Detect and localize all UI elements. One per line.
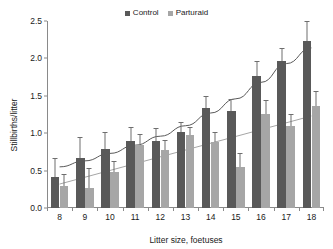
y-axis-tick-mark [44,95,47,96]
x-axis-tick-label: 11 [131,212,140,222]
bar-parturaid-10 [110,21,119,208]
error-bar [190,128,191,135]
bar-rect [261,114,270,208]
x-axis-tick-mark [299,208,300,211]
legend-label-control: Control [133,9,159,17]
bar-group [76,21,94,208]
bar-group [202,21,220,208]
error-bar [290,115,291,127]
bar-rect [186,135,195,208]
error-bar [315,92,316,105]
bar-parturaid-8 [60,21,69,208]
x-axis-tick-label: 14 [206,212,215,222]
error-bar-cap [78,137,83,138]
error-bar-cap [229,99,234,100]
x-axis-tick-mark [274,208,275,211]
error-bar-cap [53,158,58,159]
y-axis-tick-mark [44,21,47,22]
stillbirths-bar-chart: Control Parturaid Stillbirths/litter 0.0… [0,0,333,249]
x-axis-tick-mark [248,208,249,211]
error-bar-cap [213,132,218,133]
error-bar-cap [87,168,92,169]
y-axis-tick-mark [44,170,47,171]
bar-rect [101,149,110,208]
bar-group [252,21,270,208]
bar-rect [277,61,286,208]
bar-rect [252,76,261,208]
error-bar-cap [62,174,67,175]
bar-group [277,21,295,208]
bar-parturaid-11 [135,21,144,208]
error-bar [281,49,282,61]
bar-rect [227,111,236,208]
bar-rect [177,132,186,208]
bar-control-16 [252,21,261,208]
bar-parturaid-18 [312,21,321,208]
x-axis-tick-mark [123,208,124,211]
x-axis-tick-mark [323,208,324,211]
error-bar-cap [304,21,309,22]
bar-control-17 [277,21,286,208]
bar-control-11 [126,21,135,208]
x-axis-title: Litter size, foetuses [47,235,325,245]
error-bar-cap [279,48,284,49]
bar-group [101,21,119,208]
error-bar [114,162,115,172]
bar-rect [152,141,161,208]
error-bar [240,154,241,167]
x-axis-tick-label: 8 [57,212,62,222]
error-bar [256,62,257,75]
bar-group [126,21,144,208]
bar-control-14 [202,21,211,208]
bar-parturaid-14 [211,21,220,208]
error-bar [231,100,232,111]
error-bar [55,159,56,177]
bar-rect [286,126,295,208]
error-bar-cap [313,91,318,92]
error-bar [80,138,81,157]
y-axis-tick-mark [44,58,47,59]
bar-parturaid-15 [236,21,245,208]
error-bar-cap [179,122,184,123]
bar-parturaid-16 [261,21,270,208]
legend-label-parturaid: Parturaid [176,9,208,17]
error-bar-cap [288,114,293,115]
x-axis-tick-label: 18 [307,212,316,222]
bar-rect [76,158,85,208]
bar-rect [126,141,135,208]
y-axis-title: Stillbirths/litter [9,80,19,170]
error-bar-cap [137,134,142,135]
bar-group [227,21,245,208]
x-axis-tick-label: 12 [156,212,165,222]
error-bar [164,141,165,150]
bar-parturaid-12 [161,21,170,208]
x-axis-tick-mark [173,208,174,211]
error-bar [155,129,156,141]
error-bar [181,123,182,132]
error-bar [130,128,131,141]
x-axis-tick-mark [47,208,48,211]
error-bar-cap [254,61,259,62]
error-bar-cap [238,153,243,154]
error-bar [215,133,216,142]
x-axis-tick-label: 15 [231,212,240,222]
y-axis-line [47,21,48,208]
x-axis-tick-label: 10 [105,212,114,222]
bar-rect [60,186,69,208]
bar-control-8 [51,21,60,208]
bar-group [51,21,69,208]
bar-parturaid-13 [186,21,195,208]
bar-rect [135,145,144,208]
x-axis-tick-label: 9 [82,212,87,222]
error-bar-cap [112,161,117,162]
error-bar [265,101,266,114]
error-bar-cap [204,96,209,97]
bar-control-12 [152,21,161,208]
error-bar-cap [188,127,193,128]
bar-control-15 [227,21,236,208]
plot-area: 0.00.51.01.52.02.589101112131415161718 [47,21,324,208]
x-axis-tick-label: 13 [181,212,190,222]
x-axis-tick-mark [97,208,98,211]
bar-rect [236,167,245,208]
error-bar-cap [128,127,133,128]
